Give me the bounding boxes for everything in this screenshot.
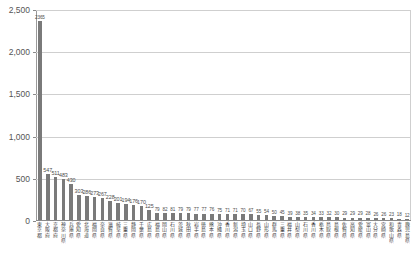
bar-rect (69, 184, 73, 220)
bar[interactable]: 71 (226, 214, 230, 220)
bar[interactable]: 34 (312, 217, 316, 220)
bar-value-label: 79 (186, 208, 191, 213)
bar-value-label: 82 (162, 208, 167, 213)
bar-rect (257, 215, 261, 220)
bar[interactable]: 39 (288, 217, 292, 220)
x-tick-label: 香川県 (224, 222, 232, 238)
bar[interactable]: 79 (179, 213, 183, 220)
bar[interactable]: 170 (140, 206, 144, 220)
bar[interactable]: 303 (77, 195, 81, 220)
bar-rect (397, 219, 401, 221)
bar[interactable]: 81 (171, 213, 175, 220)
bar[interactable]: 29 (343, 218, 347, 220)
bar[interactable]: 35 (304, 217, 308, 220)
bar[interactable]: 26 (374, 218, 378, 220)
bar-rect (147, 210, 151, 221)
bar[interactable]: 77 (202, 214, 206, 220)
bar[interactable]: 201 (116, 203, 120, 220)
bar[interactable]: 71 (233, 214, 237, 220)
bar-value-label: 34 (311, 212, 316, 217)
bar-value-label: 77 (202, 208, 207, 213)
bar[interactable]: 32 (327, 217, 331, 220)
bar-rect (187, 213, 191, 220)
bar-rect (77, 195, 81, 220)
bar[interactable]: 79 (155, 213, 159, 220)
bar-value-label: 2365 (35, 16, 45, 21)
bar[interactable]: 194 (124, 204, 128, 220)
bar[interactable]: 511 (54, 177, 58, 220)
bar-rect (210, 214, 214, 220)
bar[interactable]: 176 (132, 205, 136, 220)
bar-value-label: 38 (295, 212, 300, 217)
bar[interactable]: 23 (390, 218, 394, 220)
bar[interactable]: 38 (296, 217, 300, 220)
bar[interactable]: 30 (335, 217, 339, 220)
bar[interactable]: 125 (147, 210, 151, 221)
bar[interactable]: 55 (257, 215, 261, 220)
bar[interactable]: 45 (280, 216, 284, 220)
y-tick-label: 500 (16, 175, 30, 184)
bar-rect (272, 216, 276, 220)
bar-value-label: 30 (334, 212, 339, 217)
y-tick-label: 0 (25, 217, 30, 226)
bar-rect (241, 214, 245, 220)
bar[interactable]: 430 (69, 184, 73, 220)
bar[interactable]: 29 (351, 218, 355, 220)
bar-rect (233, 214, 237, 220)
bar-rect (93, 197, 97, 220)
x-tick-label: 鳥取県 (325, 222, 333, 238)
bar[interactable]: 70 (241, 214, 245, 220)
bar[interactable]: 228 (108, 201, 112, 220)
bar[interactable]: 50 (272, 216, 276, 220)
x-axis-line (36, 220, 411, 221)
x-tick-label: 三重県 (278, 222, 286, 238)
bar-rect (335, 217, 339, 220)
bar[interactable]: 67 (249, 214, 253, 220)
bar[interactable]: 75 (218, 214, 222, 220)
bar[interactable]: 76 (210, 214, 214, 220)
bar-rect (249, 214, 253, 220)
x-tick-label: 兵庫県 (67, 222, 75, 238)
x-tick-label: 茨城県 (177, 222, 185, 238)
bar[interactable]: 12 (405, 219, 409, 220)
bar-rect (132, 205, 136, 220)
bar-value-label: 430 (67, 178, 76, 183)
bar-rect (171, 213, 175, 220)
bar[interactable]: 286 (85, 196, 89, 220)
bar-value-label: 12 (405, 214, 410, 219)
bar[interactable]: 267 (101, 198, 105, 220)
bar-rect (194, 214, 198, 220)
x-tick-label: 大阪府 (44, 222, 52, 238)
bar[interactable]: 18 (397, 219, 401, 221)
bar[interactable]: 82 (163, 213, 167, 220)
x-tick-label: 岡山県 (161, 222, 169, 238)
x-tick-label: 香川県 (309, 222, 317, 238)
x-tick-label: 北海道 (83, 222, 91, 238)
x-tick-label: 山口県 (247, 222, 255, 238)
bar[interactable]: 2365 (38, 21, 42, 220)
x-tick-label: 徳島県 (200, 222, 208, 238)
bar[interactable]: 54 (265, 215, 269, 220)
bar[interactable]: 547 (46, 174, 50, 220)
bar-rect (382, 218, 386, 220)
x-tick-label: 大分県 (372, 222, 380, 238)
bar[interactable]: 483 (62, 179, 66, 220)
bar[interactable]: 79 (187, 213, 191, 220)
bar-rect (280, 216, 284, 220)
bar-value-label: 29 (358, 212, 363, 217)
bar[interactable]: 26 (382, 218, 386, 220)
bar-value-label: 76 (209, 208, 214, 213)
bar[interactable]: 28 (366, 218, 370, 220)
bar[interactable]: 77 (194, 214, 198, 220)
x-axis-category-labels: 東京都大阪府京都府神奈川県兵庫県愛知県北海道福岡県奈良県滋賀県岐阜県三重県静岡県… (36, 222, 411, 272)
bar-rect (405, 219, 409, 220)
bar-rect (46, 174, 50, 220)
bar-rect (319, 217, 323, 220)
bar-value-label: 50 (272, 211, 277, 216)
bar[interactable]: 29 (358, 218, 362, 220)
x-tick-label: 宮崎県 (380, 222, 388, 238)
bar[interactable]: 33 (319, 217, 323, 220)
bar-rect (101, 198, 105, 220)
bar-rect (366, 218, 370, 220)
bar[interactable]: 273 (93, 197, 97, 220)
